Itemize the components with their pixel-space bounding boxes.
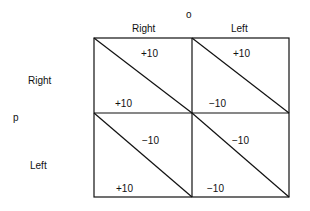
- row-header-left: Left: [30, 161, 47, 171]
- payoff-lr-o: −10: [142, 136, 159, 146]
- payoff-rl-o: +10: [233, 49, 250, 59]
- payoff-ll-o: −10: [232, 136, 249, 146]
- payoff-rr-o: +10: [141, 49, 158, 59]
- payoff-ll-p: −10: [207, 184, 224, 194]
- row-player-label: p: [13, 113, 19, 123]
- column-player-label: o: [186, 10, 192, 20]
- row-header-right: Right: [28, 76, 51, 86]
- payoff-lr-p: +10: [116, 184, 133, 194]
- column-header-left: Left: [231, 24, 248, 34]
- payoff-rl-p: −10: [209, 99, 226, 109]
- payoff-rr-p: +10: [115, 99, 132, 109]
- column-header-right: Right: [132, 24, 155, 34]
